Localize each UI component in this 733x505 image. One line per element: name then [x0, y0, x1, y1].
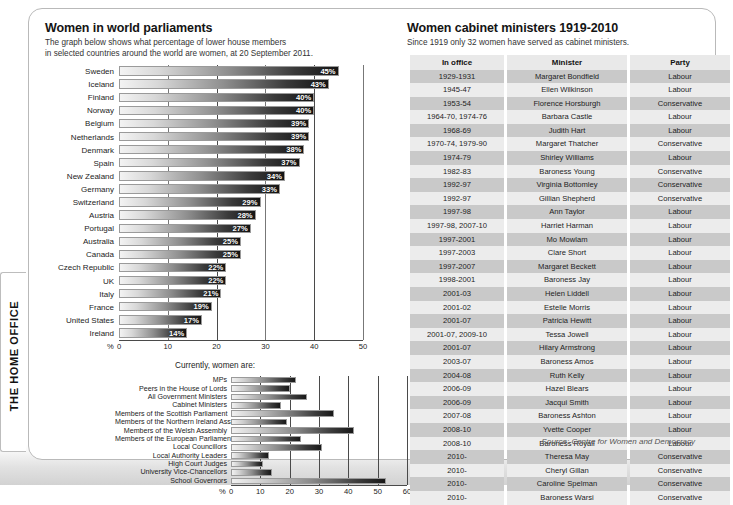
chart-plot-area — [231, 435, 385, 443]
chart-plot-area: 25% — [119, 248, 385, 261]
cell-in-office: 2006-09 — [410, 396, 504, 410]
chart-row: All Government Ministers — [115, 393, 385, 401]
cell-minister: Margaret Beckett — [507, 260, 627, 274]
gridline — [378, 460, 379, 468]
chart-bar-value: 39% — [291, 132, 309, 141]
cell-in-office: 2010- — [410, 491, 504, 505]
chart-x-axis: %01020304050 — [119, 340, 363, 353]
gridline — [348, 435, 349, 443]
chart-row: UK22% — [45, 275, 385, 288]
cell-minister: Yvette Cooper — [507, 423, 627, 437]
gridline — [265, 261, 266, 274]
gridline — [265, 275, 266, 288]
chart-plot-area — [231, 443, 385, 451]
gridline — [363, 91, 364, 104]
cell-party: Labour — [630, 219, 730, 233]
gridline — [217, 327, 218, 340]
cell-party: Conservative — [630, 97, 730, 111]
cell-party: Labour — [630, 382, 730, 396]
cell-minister: Florence Horsburgh — [507, 97, 627, 111]
table-header-row: In officeMinisterParty — [410, 55, 730, 70]
cell-minister: Gillian Shepherd — [507, 192, 627, 206]
cell-party: Labour — [630, 124, 730, 138]
gridline — [363, 78, 364, 91]
axis-tick-label: 0 — [117, 342, 121, 351]
cell-party: Labour — [630, 246, 730, 260]
chart-row: Germany33% — [45, 183, 385, 196]
chart-row: Finland40% — [45, 91, 385, 104]
cell-in-office: 2010- — [410, 450, 504, 464]
gridline — [290, 451, 291, 459]
table-row: 2001-07, 2009-10Tessa JowellLabour — [410, 328, 730, 342]
cell-minister: Hazel Blears — [507, 382, 627, 396]
gridline — [348, 451, 349, 459]
table-row: 1997-98Ann TaylorLabour — [410, 205, 730, 219]
axis-tick-label: 40 — [344, 487, 352, 496]
world-parliaments-chart: Sweden45%Iceland43%Finland40%Norway40%Be… — [45, 65, 385, 353]
axis-tick-label: 50 — [359, 342, 367, 351]
cell-minister: Cheryl Gillan — [507, 464, 627, 478]
axis-unit-label: % — [107, 342, 114, 351]
chart-category-label: Local Councillors — [115, 443, 231, 451]
cell-minister: Virginia Bottomley — [507, 178, 627, 192]
gridline — [348, 376, 349, 384]
table-row: 2006-09Hazel BlearsLabour — [410, 382, 730, 396]
chart-row: Portugal27% — [45, 222, 385, 235]
chart-bar — [231, 377, 296, 384]
gridline — [319, 468, 320, 476]
chart-row: Local Authority Leaders — [115, 451, 385, 459]
cell-minister: Ellen Wilkinson — [507, 83, 627, 97]
table-col-in-office: In office — [410, 55, 504, 70]
gridline — [378, 376, 379, 384]
table-row: 1982-83Baroness YoungConservative — [410, 165, 730, 179]
chart-category-label: Spain — [45, 159, 119, 168]
cell-party: Labour — [630, 369, 730, 383]
chart-bar-value: 17% — [184, 316, 202, 325]
chart-plot-area: 25% — [119, 235, 385, 248]
gridline — [363, 130, 364, 143]
gridline — [314, 314, 315, 327]
cell-in-office: 1997-2001 — [410, 233, 504, 247]
cell-minister: Mo Mowlam — [507, 233, 627, 247]
chart-bar — [119, 79, 329, 88]
gridline — [314, 248, 315, 261]
chart-category-label: Members of the European Parliament — [115, 435, 231, 443]
chart-plot-area: 27% — [119, 222, 385, 235]
chart-bar-value: 34% — [267, 172, 285, 181]
chart-plot-area — [231, 384, 385, 392]
chart-bar-value: 27% — [233, 224, 251, 233]
chart-row: France19% — [45, 301, 385, 314]
chart-bar — [119, 197, 261, 206]
chart-bar — [231, 394, 307, 401]
gridline — [348, 418, 349, 426]
gridline — [314, 183, 315, 196]
cell-party: Labour — [630, 409, 730, 423]
gridline — [265, 196, 266, 209]
axis-line — [119, 340, 363, 341]
cell-in-office: 2001-07 — [410, 314, 504, 328]
cell-in-office: 1998-2001 — [410, 273, 504, 287]
chart-bar — [231, 478, 386, 485]
chart-bar — [119, 145, 304, 154]
chart-bar — [231, 452, 269, 459]
chart-category-label: UK — [45, 277, 119, 286]
chart-row: Members of the Welsh Assembly — [115, 426, 385, 434]
chart-bar — [119, 132, 309, 141]
chart-bar — [119, 210, 256, 219]
gridline — [290, 468, 291, 476]
chart-plot-area — [231, 468, 385, 476]
cell-in-office: 1997-2003 — [410, 246, 504, 260]
infographic-card: Women in world parliaments The graph bel… — [28, 8, 716, 460]
chart-plot-area — [231, 376, 385, 384]
gridline — [363, 144, 364, 157]
left-panel: Women in world parliaments The graph bel… — [45, 21, 385, 498]
cell-in-office: 1997-98, 2007-10 — [410, 219, 504, 233]
chart-bar — [119, 184, 280, 193]
chart-bar-value: 45% — [320, 67, 338, 76]
chart-row: Members of the Scottish Parliament — [115, 410, 385, 418]
table-row: 1998-2001Baroness JayLabour — [410, 273, 730, 287]
gridline — [265, 301, 266, 314]
chart-row: Local Councillors — [115, 443, 385, 451]
axis-tick-label: 10 — [256, 487, 264, 496]
gridline — [265, 314, 266, 327]
